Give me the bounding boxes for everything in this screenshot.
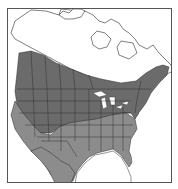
- range-map: [7, 8, 172, 183]
- map-frame: [7, 8, 172, 183]
